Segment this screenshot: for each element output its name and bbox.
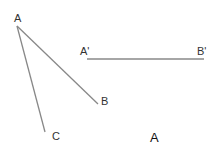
segment-ac [17,26,45,132]
label-a: A [14,12,22,24]
label-a-prime: A' [80,45,89,57]
label-b-prime: B' [197,45,206,57]
diagram-canvas: A B C A' B' A [0,0,222,150]
diagram-svg: A B C A' B' A [0,0,222,150]
figure-caption: A [150,130,159,145]
label-c: C [52,130,60,142]
segment-ab [17,26,98,104]
label-b: B [101,95,108,107]
